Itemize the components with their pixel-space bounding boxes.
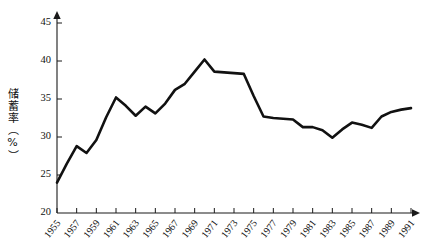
savings-rate-line bbox=[57, 59, 411, 182]
x-tick-label: 1979 bbox=[278, 217, 299, 240]
x-tick-label: 1963 bbox=[120, 217, 141, 240]
x-tick-label: 1985 bbox=[337, 217, 358, 240]
y-tick-label: 20 bbox=[41, 206, 52, 217]
x-axis bbox=[57, 209, 420, 216]
x-tick-label: 1977 bbox=[258, 217, 279, 240]
x-tick-label: 1967 bbox=[160, 217, 181, 240]
x-tick-label: 1969 bbox=[179, 217, 200, 240]
y-tick-label: 40 bbox=[41, 54, 52, 65]
y-axis-up-arrow-icon bbox=[53, 11, 60, 19]
savings-rate-chart: 202530354045 195519571959196119631965196… bbox=[0, 0, 445, 250]
x-tick-label: 1973 bbox=[219, 217, 240, 240]
x-tick-label: 1957 bbox=[61, 217, 82, 240]
x-tick-label: 1959 bbox=[81, 217, 102, 240]
y-tick-label: 35 bbox=[41, 92, 52, 103]
x-tick-label: 1975 bbox=[238, 217, 259, 240]
chart-canvas: 202530354045 195519571959196119631965196… bbox=[0, 0, 445, 250]
x-tick-label: 1987 bbox=[356, 217, 377, 240]
x-axis-right-arrow-icon bbox=[412, 209, 420, 216]
y-tick-label: 30 bbox=[41, 130, 52, 141]
y-tick-label: 25 bbox=[41, 168, 52, 179]
x-tick-label: 1971 bbox=[199, 217, 220, 240]
x-tick-label: 1955 bbox=[42, 217, 63, 240]
x-tick-group bbox=[57, 208, 411, 213]
x-tick-label: 1983 bbox=[317, 217, 338, 240]
y-tick-label: 45 bbox=[41, 16, 52, 27]
x-tick-label: 1965 bbox=[140, 217, 161, 240]
x-tick-label: 1989 bbox=[376, 217, 397, 240]
x-tick-label: 1961 bbox=[101, 217, 122, 240]
y-tick-label-group: 202530354045 bbox=[41, 16, 52, 217]
x-tick-label-group: 1955195719591961196319651967196919711973… bbox=[42, 217, 417, 240]
x-tick-label: 1991 bbox=[396, 217, 417, 240]
x-tick-label: 1981 bbox=[297, 217, 318, 240]
y-tick-group bbox=[57, 23, 62, 175]
